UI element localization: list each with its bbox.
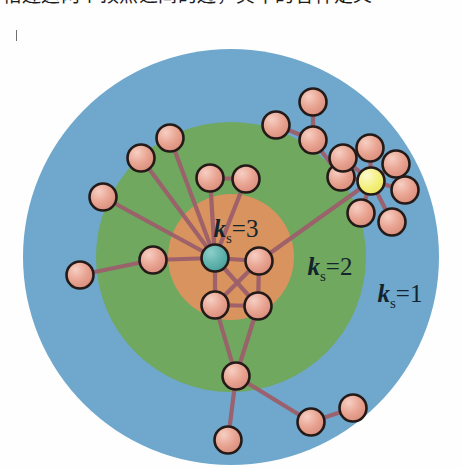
network-node[interactable] <box>263 112 290 139</box>
network-node[interactable] <box>357 135 384 162</box>
network-node[interactable] <box>330 145 357 172</box>
network-node[interactable] <box>215 427 242 454</box>
zone-label-shell-2: ks=2 <box>308 253 353 284</box>
network-node[interactable] <box>157 125 184 152</box>
network-node[interactable] <box>246 248 273 275</box>
network-node[interactable] <box>298 409 325 436</box>
network-node[interactable] <box>202 292 229 319</box>
k-shell-diagram: ks=1ks=2ks=3 <box>0 40 462 468</box>
hub-node[interactable] <box>358 168 385 195</box>
network-node[interactable] <box>233 166 260 193</box>
zone-label-shell-3: ks=3 <box>214 215 259 246</box>
network-node[interactable] <box>90 184 117 211</box>
network-node[interactable] <box>392 177 419 204</box>
network-node[interactable] <box>383 151 410 178</box>
network-node[interactable] <box>223 363 250 390</box>
network-node[interactable] <box>340 395 367 422</box>
network-node[interactable] <box>379 209 406 236</box>
network-node[interactable] <box>300 89 327 116</box>
network-node[interactable] <box>245 293 272 320</box>
network-node[interactable] <box>67 262 94 289</box>
center-node[interactable] <box>202 245 229 272</box>
network-node[interactable] <box>197 165 224 192</box>
caption-text: 相连这两个顶点之间的边，其中的各种定义 <box>2 0 373 5</box>
zone-label-shell-1: ks=1 <box>378 280 423 311</box>
network-node[interactable] <box>140 247 167 274</box>
clipped-caption-strip: 相连这两个顶点之间的边，其中的各种定义 <box>0 0 462 14</box>
network-node[interactable] <box>300 127 327 154</box>
network-svg: ks=1ks=2ks=3 <box>0 40 462 468</box>
network-node[interactable] <box>348 200 375 227</box>
figure-canvas: 相连这两个顶点之间的边，其中的各种定义 <box>0 0 462 468</box>
network-node[interactable] <box>128 145 155 172</box>
